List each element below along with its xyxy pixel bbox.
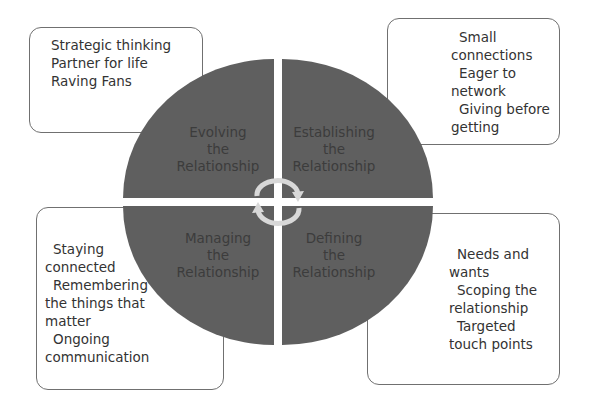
label-line: the	[274, 247, 394, 264]
label-line: Evolving	[158, 124, 278, 141]
label-line: the	[274, 141, 394, 158]
callout-line: Partner for life	[51, 54, 202, 72]
callout-line: communication	[45, 348, 223, 366]
callout-line: Raving Fans	[51, 72, 202, 90]
callout-line: Scoping the	[449, 281, 559, 299]
quadrant-label-defining: Defining the Relationship	[274, 230, 394, 281]
label-line: the	[158, 141, 278, 158]
quadrant-label-managing: Managing the Relationship	[158, 230, 278, 281]
label-line: Establishing	[274, 124, 394, 141]
cycle-arrows-icon	[248, 174, 308, 230]
label-line: Managing	[158, 230, 278, 247]
callout-line: touch points	[449, 335, 559, 353]
callout-line: relationship	[449, 299, 559, 317]
callout-line: Eager to	[451, 64, 559, 82]
quadrant-label-establishing: Establishing the Relationship	[274, 124, 394, 175]
callout-line: Needs and	[449, 245, 559, 263]
label-line: Relationship	[158, 158, 278, 175]
callout-line: getting	[451, 118, 559, 136]
callout-line: network	[451, 82, 559, 100]
label-line: Relationship	[274, 158, 394, 175]
label-line: Defining	[274, 230, 394, 247]
callout-line: Ongoing	[45, 330, 223, 348]
callout-establishing: Small connections Eager to network Givin…	[387, 18, 560, 145]
callout-line: Targeted	[449, 317, 559, 335]
callout-line: wants	[449, 263, 559, 281]
callout-line: Strategic thinking	[51, 36, 202, 54]
callout-line: Giving before	[451, 100, 559, 118]
callout-line: connections	[451, 46, 559, 64]
label-line: the	[158, 247, 278, 264]
label-line: Relationship	[158, 264, 278, 281]
callout-line: Small	[451, 28, 559, 46]
label-line: Relationship	[274, 264, 394, 281]
quadrant-label-evolving: Evolving the Relationship	[158, 124, 278, 175]
